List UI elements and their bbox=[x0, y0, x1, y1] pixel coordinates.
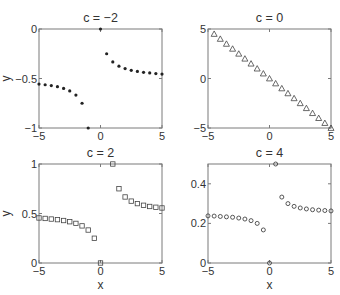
x-tick-label: 0 bbox=[266, 265, 272, 277]
data-point bbox=[141, 203, 145, 207]
y-tick-label: 1 bbox=[31, 158, 37, 170]
data-point bbox=[154, 205, 158, 209]
data-point bbox=[279, 85, 285, 90]
data-point bbox=[212, 214, 216, 218]
data-point bbox=[236, 51, 242, 56]
figure: c = −2−505−1−0.50yc = 0−505−505c = 2−505… bbox=[0, 0, 340, 295]
data-series bbox=[206, 162, 333, 265]
data-point bbox=[317, 208, 321, 212]
axes-box bbox=[208, 164, 331, 263]
data-point bbox=[74, 221, 78, 225]
data-point bbox=[50, 84, 53, 87]
subplot-title: c = 4 bbox=[256, 146, 283, 160]
subplot-c-0: c = 0−505−505 bbox=[193, 11, 334, 142]
data-point bbox=[297, 100, 303, 105]
data-point bbox=[254, 66, 260, 71]
y-tick-label: 5 bbox=[200, 23, 206, 35]
data-point bbox=[217, 36, 223, 41]
axes-box bbox=[39, 164, 162, 263]
x-tick-label: 5 bbox=[159, 130, 165, 142]
data-point bbox=[280, 195, 284, 199]
data-point bbox=[231, 215, 235, 219]
data-point bbox=[323, 209, 327, 213]
data-point bbox=[44, 83, 47, 86]
data-point bbox=[311, 208, 315, 212]
subplot-title: c = 2 bbox=[87, 146, 114, 160]
data-point bbox=[148, 71, 151, 74]
data-point bbox=[124, 67, 127, 70]
x-axis-label: x bbox=[98, 278, 104, 292]
data-point bbox=[292, 204, 296, 208]
data-point bbox=[298, 206, 302, 210]
x-tick-label: 0 bbox=[266, 130, 272, 142]
data-point bbox=[267, 76, 273, 81]
data-point bbox=[148, 204, 152, 208]
x-tick-label: 5 bbox=[328, 265, 334, 277]
data-series bbox=[37, 27, 163, 129]
data-point bbox=[68, 89, 71, 92]
x-tick-label: 5 bbox=[328, 130, 334, 142]
data-point bbox=[130, 69, 133, 72]
y-tick-label: 0 bbox=[31, 23, 37, 35]
data-point bbox=[285, 90, 291, 95]
y-axis-label: y bbox=[0, 76, 13, 82]
data-point bbox=[123, 195, 127, 199]
data-point bbox=[80, 224, 84, 228]
x-tick-label: 0 bbox=[97, 265, 103, 277]
data-point bbox=[68, 220, 72, 224]
y-tick-label: −5 bbox=[193, 122, 206, 134]
data-point bbox=[237, 216, 241, 220]
figure-canvas: c = −2−505−1−0.50yc = 0−505−505c = 2−505… bbox=[0, 0, 340, 295]
data-point bbox=[230, 46, 236, 51]
axes-box bbox=[39, 29, 162, 128]
data-point bbox=[273, 80, 279, 85]
data-point bbox=[117, 65, 120, 68]
data-point bbox=[56, 85, 59, 88]
y-tick-label: −1 bbox=[24, 122, 37, 134]
data-point bbox=[80, 102, 83, 105]
y-tick-label: 0.5 bbox=[22, 208, 37, 220]
data-point bbox=[322, 120, 328, 125]
y-tick-label: 0 bbox=[200, 73, 206, 85]
subplot-c-4: c = 4−50500.20.4x bbox=[191, 146, 334, 292]
data-point bbox=[224, 215, 228, 219]
data-point bbox=[74, 93, 77, 96]
data-point bbox=[87, 126, 90, 129]
data-point bbox=[136, 70, 139, 73]
x-tick-label: 5 bbox=[159, 265, 165, 277]
y-tick-label: −0.5 bbox=[15, 73, 37, 85]
data-point bbox=[218, 214, 222, 218]
data-point bbox=[55, 217, 59, 221]
data-point bbox=[92, 236, 96, 240]
data-point bbox=[105, 52, 108, 55]
subplot-c-neg2: c = −2−505−1−0.50y bbox=[0, 11, 165, 142]
data-point bbox=[160, 72, 163, 75]
data-point bbox=[249, 219, 253, 223]
y-tick-label: 0.2 bbox=[191, 217, 206, 229]
data-point bbox=[117, 187, 121, 191]
subplot-title: c = −2 bbox=[83, 11, 118, 25]
data-series bbox=[37, 162, 164, 265]
x-tick-label: 0 bbox=[97, 130, 103, 142]
axes-box bbox=[208, 29, 331, 128]
data-point bbox=[86, 228, 90, 232]
data-point bbox=[37, 82, 40, 85]
data-point bbox=[111, 60, 114, 63]
data-point bbox=[304, 207, 308, 211]
data-point bbox=[242, 56, 248, 61]
data-point bbox=[142, 71, 145, 74]
data-point bbox=[286, 202, 290, 206]
data-point bbox=[43, 216, 47, 220]
data-point bbox=[291, 95, 297, 100]
data-point bbox=[49, 217, 53, 221]
subplot-title: c = 0 bbox=[256, 11, 283, 25]
data-point bbox=[261, 228, 265, 232]
data-point bbox=[260, 71, 266, 76]
data-point bbox=[129, 199, 133, 203]
data-point bbox=[248, 61, 254, 66]
y-tick-label: 0 bbox=[200, 257, 206, 269]
data-point bbox=[255, 221, 259, 225]
data-point bbox=[316, 115, 322, 120]
y-axis-label: y bbox=[0, 211, 13, 217]
data-point bbox=[243, 217, 247, 221]
